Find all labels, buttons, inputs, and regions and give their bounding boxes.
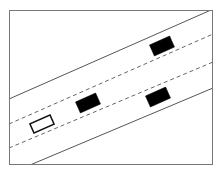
background — [0, 0, 220, 170]
road-diagram — [0, 0, 220, 170]
road-diagram-canvas — [0, 0, 220, 170]
